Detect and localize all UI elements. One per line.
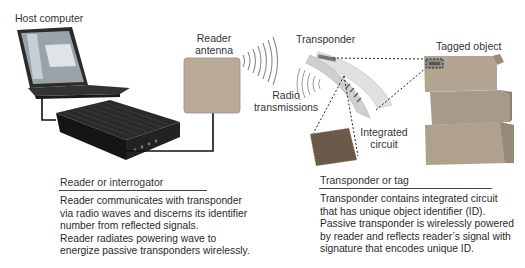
reader-desc-line: number from reflected signals. (60, 220, 250, 233)
tagged-object-boxes-icon (424, 54, 514, 165)
host-computer-label: Host computer (15, 12, 83, 24)
integrated-circuit-label: Integrated circuit (354, 126, 414, 150)
antenna-panel-icon (184, 58, 240, 113)
tag-desc-line: that has unique object identifier (ID). (320, 206, 514, 219)
transponder-label: Transponder (296, 33, 355, 45)
integrated-circuit-label-line1: Integrated (354, 126, 414, 138)
reader-antenna-label: Reader antenna (190, 32, 238, 56)
reader-section-divider (59, 190, 207, 191)
integrated-circuit-icon (310, 128, 357, 166)
radio-transmissions-label-line1: Radio (250, 89, 322, 101)
reader-section-title: Reader or interrogator (60, 176, 163, 188)
reader-desc-line: Reader radiates powering wave to (60, 233, 250, 246)
integrated-circuit-label-line2: circuit (354, 138, 414, 150)
reader-section-description: Reader communicates with transponder via… (60, 195, 250, 258)
cable-laptop-reader (42, 96, 56, 120)
radio-transmissions-label-line2: transmissions (250, 101, 322, 113)
tagged-object-label: Tagged object (436, 40, 501, 52)
radio-waves-outgoing-icon (243, 37, 278, 85)
reader-desc-line: Reader communicates with transponder (60, 195, 250, 208)
tag-desc-line: by reader and reflects reader’s signal w… (320, 231, 514, 244)
laptop-icon (17, 27, 130, 99)
reader-desc-line: via radio waves and discerns its identif… (60, 208, 250, 221)
tag-section-title: Transponder or tag (320, 174, 409, 186)
radio-transmissions-label: Radio transmissions (250, 89, 322, 113)
reader-antenna-label-line2: antenna (190, 44, 238, 56)
tag-section-description: Transponder contains integrated circuit … (320, 193, 514, 256)
tag-section-divider (319, 188, 492, 189)
tag-desc-line: Transponder contains integrated circuit (320, 193, 514, 206)
tag-desc-line: signature that encodes unique ID. (320, 243, 514, 256)
reader-antenna-label-line1: Reader (190, 32, 238, 44)
reader-desc-line: energize passive transponders wirelessly… (60, 245, 250, 258)
tag-desc-line: Passive transponder is wirelessly powere… (320, 218, 514, 231)
